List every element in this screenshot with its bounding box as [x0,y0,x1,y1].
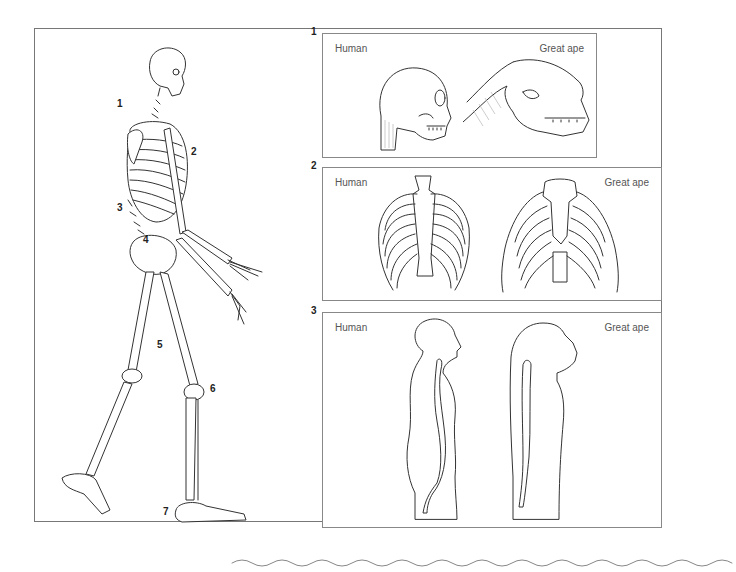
human-spine-silhouette [403,317,513,527]
skeleton-label-7: 7 [163,506,169,517]
skeleton-label-4: 4 [143,234,149,245]
wavy-page-divider [232,557,732,569]
panel-skull-comparison: Human Great ape [322,33,597,158]
panel-3-human-label: Human [335,322,367,333]
panel-3-number: 3 [311,305,317,316]
panel-1-human-label: Human [335,43,367,54]
skeleton-label-2: 2 [191,146,197,157]
skeleton-label-3: 3 [117,202,123,213]
human-ribcage-illustration [369,172,479,302]
ape-spine-silhouette [499,317,619,527]
panel-1-number: 1 [311,26,317,37]
panel-ribcage-comparison: Human Great ape [322,167,662,301]
skeleton-label-1: 1 [117,98,123,109]
panel-spine-comparison: Human Great ape [322,312,662,528]
skeleton-label-6: 6 [210,383,216,394]
ape-ribcage-illustration [495,172,625,302]
panel-2-number: 2 [311,160,317,171]
skeleton-label-5: 5 [157,339,163,350]
ape-skull-illustration [443,52,593,152]
panel-2-human-label: Human [335,177,367,188]
